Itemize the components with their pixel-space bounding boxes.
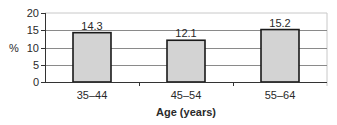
x-tick-label: 45–54 (171, 89, 202, 101)
data-label: 14.3 (81, 20, 102, 32)
y-tick-label: 0 (33, 76, 39, 88)
data-label: 15.2 (269, 17, 290, 29)
y-axis-label: % (9, 42, 19, 54)
bar-45–54 (167, 40, 205, 82)
x-axis-label: Age (years) (156, 106, 216, 118)
y-tick-label: 20 (27, 7, 39, 19)
y-tick-label: 15 (27, 24, 39, 36)
y-tick-label: 10 (27, 42, 39, 54)
data-label: 12.1 (175, 27, 196, 39)
x-tick-label: 35–44 (77, 89, 108, 101)
bar-35–44 (73, 33, 111, 82)
data-labels: 14.312.115.2 (81, 17, 290, 40)
x-tick-labels: 35–4445–5455–64 (77, 89, 296, 101)
bar-55–64 (261, 30, 299, 82)
y-tick-label: 5 (33, 59, 39, 71)
bar-chart: 05101520 35–4445–5455–64 14.312.115.2 % … (0, 0, 337, 125)
chart-canvas: 05101520 35–4445–5455–64 14.312.115.2 % … (0, 0, 337, 125)
x-tick-label: 55–64 (265, 89, 296, 101)
y-tick-labels: 05101520 (27, 7, 39, 88)
